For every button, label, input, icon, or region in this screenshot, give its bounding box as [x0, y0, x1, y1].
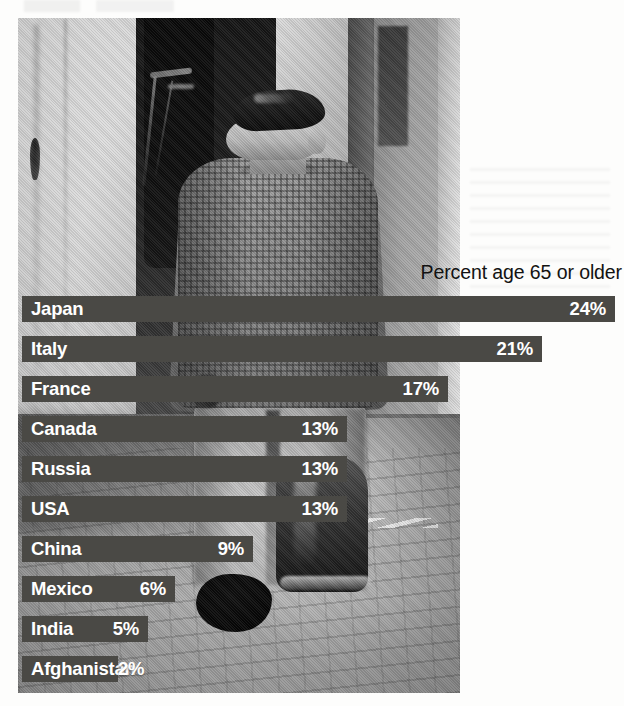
- bar-label: Russia: [31, 458, 90, 480]
- bar-label: Italy: [31, 338, 67, 360]
- bar-row: India 5%: [22, 616, 148, 642]
- bar-value: 24%: [570, 298, 606, 320]
- bar-value: 2%: [118, 658, 144, 680]
- bar-label: France: [31, 378, 90, 400]
- bar-row: France 17%: [22, 376, 448, 402]
- chart-title: Percent age 65 or older: [421, 261, 623, 284]
- bar-value: 17%: [403, 378, 439, 400]
- bar-row: Japan 24%: [22, 296, 615, 322]
- bar-label: Mexico: [31, 578, 93, 600]
- bar-value: 13%: [302, 458, 338, 480]
- bar-row: China 9%: [22, 536, 253, 562]
- bar-row: USA 13%: [22, 496, 347, 522]
- bar-label: China: [31, 538, 81, 560]
- bar-label: India: [31, 618, 73, 640]
- bar-value: 13%: [302, 418, 338, 440]
- bar-row: Canada 13%: [22, 416, 347, 442]
- bar-value: 13%: [302, 498, 338, 520]
- bar-row: Italy 21%: [22, 336, 542, 362]
- bar-row: Russia 13%: [22, 456, 347, 482]
- bar-label: Canada: [31, 418, 97, 440]
- bar-value: 6%: [140, 578, 166, 600]
- infographic-page: Percent age 65 or older Japan 24% Italy …: [0, 0, 624, 706]
- bar-chart: Percent age 65 or older Japan 24% Italy …: [0, 0, 624, 706]
- bar-label: USA: [31, 498, 69, 520]
- bar-value: 5%: [113, 618, 139, 640]
- bar-value: 9%: [218, 538, 244, 560]
- bar-value: 21%: [497, 338, 533, 360]
- bar-row: Mexico 6%: [22, 576, 175, 602]
- bar-row: Afghanistan 2%: [22, 656, 118, 682]
- bar-label: Japan: [31, 298, 83, 320]
